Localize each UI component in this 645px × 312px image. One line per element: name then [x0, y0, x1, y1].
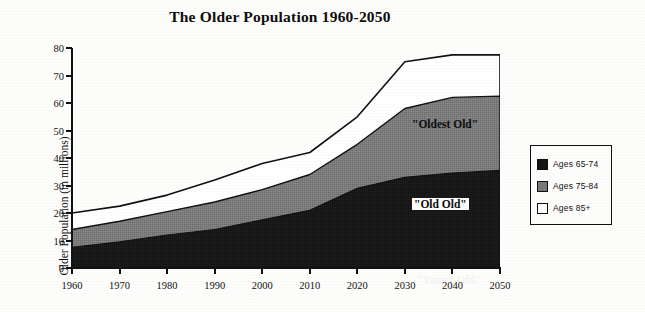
- x-tick-label-1990: 1990: [204, 280, 225, 291]
- x-tick-2050: [499, 268, 501, 274]
- x-tick-label-2010: 2010: [299, 280, 320, 291]
- legend-swatch-ages-85-plus: [537, 203, 548, 214]
- y-tick-label-60: 60: [54, 98, 65, 109]
- y-tick-label-70: 70: [54, 70, 65, 81]
- x-tick-label-2020: 2020: [347, 280, 368, 291]
- legend-label-ages-65-74: Ages 65-74: [553, 159, 598, 169]
- x-tick-2030: [404, 268, 406, 274]
- y-tick-label-10: 10: [54, 235, 65, 246]
- x-tick-1960: [71, 268, 73, 274]
- annotation-old-old: "Old Old": [412, 198, 469, 210]
- legend-item-ages-75-84[interactable]: Ages 75-84: [537, 175, 611, 197]
- x-tick-label-2000: 2000: [252, 280, 273, 291]
- y-tick-label-20: 20: [54, 208, 65, 219]
- legend-label-ages-85-plus: Ages 85+: [553, 203, 591, 213]
- x-tick-label-1960: 1960: [62, 280, 83, 291]
- y-tick-label-40: 40: [54, 153, 65, 164]
- x-tick-2040: [451, 268, 453, 274]
- y-tick-label-80: 80: [54, 43, 65, 54]
- x-tick-2020: [356, 268, 358, 274]
- x-tick-label-1980: 1980: [157, 280, 178, 291]
- chart-root: The Older Population 1960-2050 Older Pop…: [0, 0, 645, 312]
- x-tick-2000: [261, 268, 263, 274]
- x-tick-2010: [309, 268, 311, 274]
- legend-item-ages-85-plus[interactable]: Ages 85+: [537, 197, 611, 219]
- x-tick-label-2030: 2030: [394, 280, 415, 291]
- x-tick-1990: [214, 268, 216, 274]
- x-tick-label-2050: 2050: [490, 280, 511, 291]
- annotation-oldest-old: "Oldest Old": [412, 118, 478, 130]
- x-tick-1970: [119, 268, 121, 274]
- legend-label-ages-75-84: Ages 75-84: [553, 181, 598, 191]
- x-tick-1980: [166, 268, 168, 274]
- stacked-area-plot: [72, 48, 500, 268]
- x-axis-line: [71, 267, 501, 269]
- chart-title: The Older Population 1960-2050: [0, 8, 560, 26]
- x-tick-label-1970: 1970: [109, 280, 130, 291]
- legend-swatch-ages-75-84: [537, 181, 548, 192]
- y-tick-label-50: 50: [54, 125, 65, 136]
- legend-item-ages-65-74[interactable]: Ages 65-74: [537, 153, 611, 175]
- y-tick-label-0: 0: [59, 263, 64, 274]
- legend-swatch-ages-65-74: [537, 159, 548, 170]
- plot-area: Older Population (in millions): [72, 48, 500, 268]
- x-tick-label-2040: 2040: [442, 280, 463, 291]
- y-tick-label-30: 30: [54, 180, 65, 191]
- chart-legend: Ages 65-74 Ages 75-84 Ages 85+: [530, 145, 612, 225]
